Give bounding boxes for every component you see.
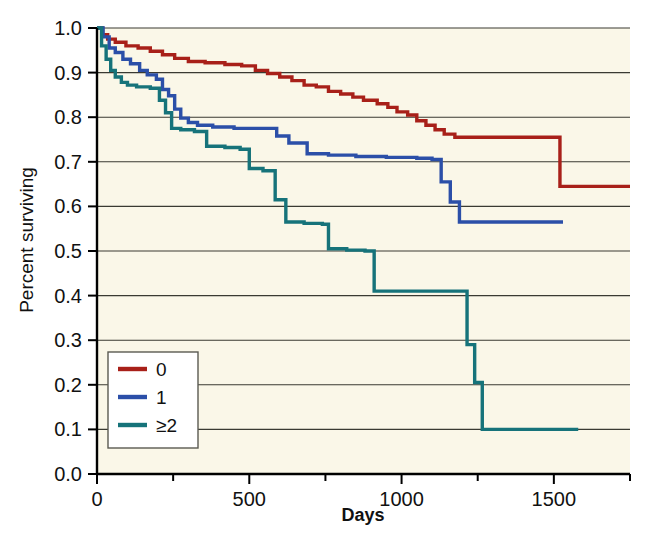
y-axis-title: Percent surviving [16, 167, 37, 313]
x-axis-title: Days [341, 505, 384, 525]
y-tick-label-0.2: 0.2 [54, 374, 82, 396]
survival-curve-figure: 0.00.10.20.30.40.50.60.70.80.91.0 050010… [0, 0, 645, 542]
x-tick-label-1000: 1000 [379, 488, 424, 510]
y-tick-label-0.3: 0.3 [54, 329, 82, 351]
y-tick-label-0.1: 0.1 [54, 418, 82, 440]
legend: 01≥2 [108, 352, 198, 448]
legend-label-2: ≥2 [156, 415, 177, 436]
y-tick-label-0.5: 0.5 [54, 240, 82, 262]
y-tick-label-0.9: 0.9 [54, 62, 82, 84]
legend-label-0: 0 [156, 359, 167, 380]
x-tick-label-0: 0 [91, 488, 102, 510]
y-tick-label-0.6: 0.6 [54, 195, 82, 217]
x-tick-label-1500: 1500 [532, 488, 577, 510]
y-tick-label-0.7: 0.7 [54, 151, 82, 173]
legend-box [108, 352, 198, 448]
y-tick-label-0.0: 0.0 [54, 463, 82, 485]
y-tick-label-1.0: 1.0 [54, 17, 82, 39]
y-tick-label-0.4: 0.4 [54, 285, 82, 307]
legend-label-1: 1 [156, 387, 167, 408]
y-tick-label-0.8: 0.8 [54, 106, 82, 128]
x-tick-label-500: 500 [233, 488, 266, 510]
kaplan-meier-chart: 0.00.10.20.30.40.50.60.70.80.91.0 050010… [0, 0, 645, 542]
